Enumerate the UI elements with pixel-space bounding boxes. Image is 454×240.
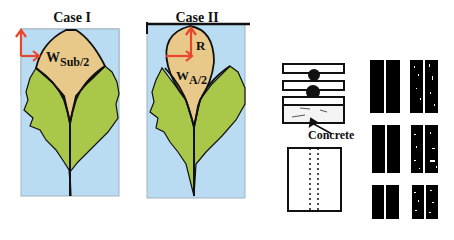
- case2-width-label: WA/2: [176, 68, 207, 88]
- case1-width-main: W: [46, 50, 60, 65]
- case1-width-sub: Sub/2: [60, 55, 89, 69]
- case2-width-sub: A/2: [189, 73, 207, 87]
- concrete-label: Concrete: [308, 128, 354, 143]
- case1-width-label: WSub/2: [46, 50, 89, 70]
- diagram-canvas: [0, 0, 454, 240]
- case2-width-main: W: [176, 68, 189, 83]
- specimen-images: [370, 60, 438, 219]
- case2-radius-label: R: [196, 38, 205, 54]
